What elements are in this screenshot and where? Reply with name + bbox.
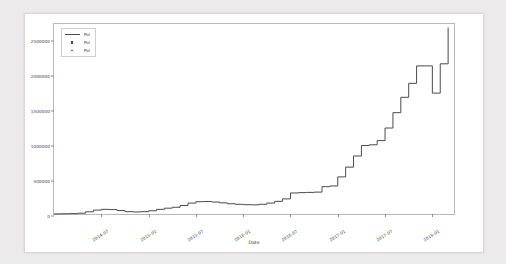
x-axis-label: Date [53, 240, 455, 245]
legend-point-marker-icon [65, 40, 80, 45]
legend-item[interactable]: Pol [65, 32, 90, 37]
legend: Pol Pol Pol [61, 28, 96, 57]
series-line-pol [54, 24, 456, 216]
x-axis-tick-mark [149, 214, 150, 217]
y-axis-tick-label: 500000 [33, 179, 50, 184]
x-axis-tick-mark [243, 214, 244, 217]
y-axis-tick-mark [51, 111, 54, 112]
figure: 050000010000001500000200000025000002014-… [25, 14, 483, 252]
y-axis-tick-label: 2500000 [31, 39, 50, 44]
x-axis-tick-mark [432, 214, 433, 217]
y-axis-tick-mark [51, 41, 54, 42]
chart-screenshot: 050000010000001500000200000025000002014-… [0, 0, 506, 264]
y-axis-tick-label: 0 [47, 214, 50, 219]
legend-item-label: Pol [84, 32, 90, 37]
x-axis-tick-mark [338, 214, 339, 217]
x-axis-tick-mark [290, 214, 291, 217]
x-axis-tick-mark [101, 214, 102, 217]
y-axis-tick-label: 1000000 [31, 144, 50, 149]
legend-item[interactable]: Pol [65, 48, 90, 53]
y-axis-tick-label: 1500000 [31, 109, 50, 114]
legend-line-marker-icon [65, 32, 80, 37]
y-axis-tick-label: 2000000 [31, 74, 50, 79]
x-axis-tick-mark [196, 214, 197, 217]
x-axis-tick-mark [385, 214, 386, 217]
y-axis-tick-mark [51, 181, 54, 182]
legend-item-label: Pol [84, 40, 90, 45]
y-axis-tick-mark [51, 146, 54, 147]
legend-item-label: Pol [84, 48, 90, 53]
legend-triangle-marker-icon [65, 48, 80, 53]
chart-card: 050000010000001500000200000025000002014-… [24, 13, 484, 253]
y-axis-tick-mark [51, 76, 54, 77]
y-axis-tick-mark [51, 216, 54, 217]
plot-area: 050000010000001500000200000025000002014-… [53, 23, 455, 215]
legend-item[interactable]: Pol [65, 40, 90, 45]
